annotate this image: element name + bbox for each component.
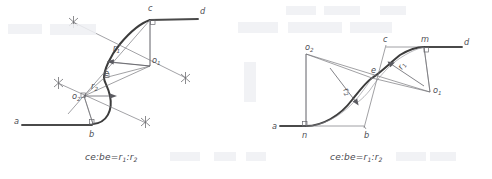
s-curve bbox=[93, 20, 150, 124]
label-point-e: e bbox=[371, 65, 376, 75]
left-diagram: a b c d e o1 o2 r1 r2 ce:be=r1:r2 bbox=[14, 3, 206, 163]
technical-drawing-canvas: a b c d e o1 o2 r1 r2 ce:be=r1:r2 bbox=[0, 0, 492, 179]
label-point-d: d bbox=[200, 6, 206, 16]
bisector-line-2 bbox=[58, 83, 146, 123]
construction-tick-mark bbox=[69, 16, 78, 28]
label-point-m: m bbox=[421, 34, 429, 44]
caption-right: ce:be=r1:r2 bbox=[330, 152, 383, 163]
label-center-o2: o2 bbox=[305, 42, 314, 53]
auxiliary-arc-r2 bbox=[306, 74, 374, 126]
radius-arrow-r2-head bbox=[110, 93, 117, 98]
label-point-b: b bbox=[364, 130, 369, 140]
auxiliary-arc-r1 bbox=[370, 47, 424, 90]
construction-tick-mark bbox=[141, 116, 150, 128]
label-point-e: e bbox=[104, 68, 109, 78]
label-radius-r2: r2 bbox=[341, 85, 354, 97]
radius-o2-o1 bbox=[306, 54, 430, 92]
radius-o1-m bbox=[424, 47, 430, 92]
radius-o2-e bbox=[306, 54, 372, 78]
bisector-line-1 bbox=[73, 22, 186, 78]
label-point-a: a bbox=[14, 116, 19, 126]
figure-root: a b c d e o1 o2 r1 r2 ce:be=r1:r2 bbox=[0, 0, 492, 179]
label-center-o1: o1 bbox=[152, 55, 161, 66]
caption-left: ce:be=r1:r2 bbox=[85, 152, 138, 163]
label-point-c: c bbox=[383, 34, 388, 44]
label-radius-r2: r2 bbox=[91, 81, 98, 92]
label-point-d: d bbox=[464, 37, 470, 47]
chord-cb bbox=[364, 45, 386, 128]
construction-tick-mark bbox=[181, 72, 190, 84]
radius-o1-e bbox=[372, 78, 430, 92]
label-point-a: a bbox=[272, 121, 277, 131]
label-point-n: n bbox=[302, 130, 307, 140]
label-radius-r1: r1 bbox=[395, 60, 408, 72]
construction-tick-mark bbox=[54, 77, 63, 89]
radius-arrow-r1 bbox=[111, 62, 150, 66]
line-cd bbox=[150, 19, 198, 20]
label-center-o1: o1 bbox=[433, 85, 442, 96]
label-point-b: b bbox=[89, 129, 94, 139]
radius-arrow-r2 bbox=[330, 68, 356, 102]
right-diagram: a n b c m d e o1 o2 r1 r2 ce:be=r1:r2 bbox=[272, 34, 470, 163]
label-point-c: c bbox=[148, 3, 153, 13]
